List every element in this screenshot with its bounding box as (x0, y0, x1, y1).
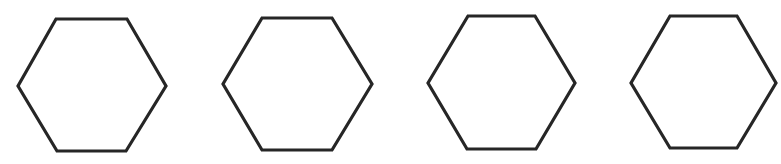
hexagon-4 (631, 16, 776, 148)
hexagon-row (0, 0, 781, 164)
diagram-canvas (0, 0, 781, 164)
hexagon-2 (223, 18, 372, 150)
hexagon-1 (18, 19, 166, 151)
hexagon-3 (428, 16, 575, 149)
